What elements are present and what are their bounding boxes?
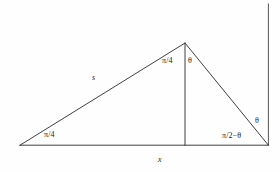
geometry-figure: π/4 s π/4 θ π/2−θ θ x [0,0,280,172]
triangle-diagram-svg [0,0,280,172]
label-angle-bottom-left: π/4 [44,131,55,139]
label-angle-bottom-right: π/2−θ [222,132,241,140]
label-angle-apex-right: θ [188,57,192,65]
right-side-segment [185,43,268,145]
label-side-s: s [92,74,95,82]
label-angle-apex-left: π/4 [162,57,173,65]
label-angle-outer-right: θ [255,117,259,125]
label-base-x: x [158,156,162,164]
